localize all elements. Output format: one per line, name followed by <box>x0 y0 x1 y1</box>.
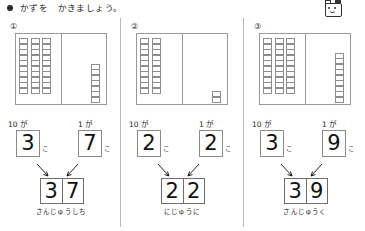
unit-cell <box>152 88 161 94</box>
unit-cell <box>140 88 149 94</box>
problem-panel-3: ③ 10 が 1 が 3 こ 9 こ 3 9 さんじゅうく <box>244 18 365 231</box>
problem-number: ① <box>10 22 17 31</box>
tens-rods-area <box>140 38 183 102</box>
ones-label: 1 が <box>78 118 92 129</box>
place-value-board <box>15 33 107 105</box>
unit-cube <box>212 97 221 103</box>
tens-digit-box[interactable]: 3 <box>260 130 284 157</box>
problem-number: ③ <box>254 22 261 31</box>
place-value-board <box>136 33 228 105</box>
tens-counter-label: こ <box>42 143 49 153</box>
unit-cell <box>275 88 284 94</box>
unit-cell <box>263 88 272 94</box>
worksheet-header: かずを かきましょう。 <box>0 0 365 17</box>
ten-rod <box>152 38 161 102</box>
ten-rod <box>286 38 295 102</box>
unit-cell <box>286 88 295 94</box>
tens-label: 10 が <box>129 118 148 129</box>
equation-area: 10 が 1 が 3 こ 7 こ 3 7 さんじゅうしち <box>0 116 122 231</box>
tens-label: 10 が <box>8 118 27 129</box>
ones-digit-box[interactable]: 7 <box>78 130 102 157</box>
tens-counter-label: こ <box>286 143 293 153</box>
number-reading: にじゅうに <box>121 206 243 216</box>
ten-rod <box>275 38 284 102</box>
mascot-eye-left <box>328 7 330 9</box>
tens-label: 10 が <box>252 118 271 129</box>
tens-digit-box[interactable]: 3 <box>16 130 40 157</box>
result-box[interactable]: 2 2 <box>161 178 205 204</box>
equation-area: 10 が 1 が 3 こ 9 こ 3 9 さんじゅうく <box>244 116 365 231</box>
tens-digit-box[interactable]: 2 <box>137 130 161 157</box>
worksheet-page: かずを かきましょう。 ① 10 が 1 が 3 こ 7 こ <box>0 0 365 231</box>
ones-stack <box>335 53 344 103</box>
ones-cubes-area <box>60 38 100 102</box>
equation-area: 10 が 1 が 2 こ 2 こ 2 2 にじゅうに <box>121 116 243 231</box>
tens-rods-area <box>19 38 62 102</box>
result-box[interactable]: 3 7 <box>40 178 84 204</box>
ones-counter-label: こ <box>104 143 111 153</box>
result-ones-digit: 7 <box>63 179 84 203</box>
ten-rod <box>263 38 272 102</box>
result-ones-digit: 2 <box>184 179 205 203</box>
page-title: かずを かきましょう。 <box>20 1 122 13</box>
number-reading: さんじゅうしち <box>0 206 122 216</box>
ones-cubes-area <box>304 38 344 102</box>
ten-rod <box>19 38 28 102</box>
unit-cube <box>91 97 100 103</box>
ten-rod <box>42 38 51 102</box>
ten-rod <box>31 38 40 102</box>
tens-rods-area <box>263 38 306 102</box>
problem-panel-1: ① 10 が 1 が 3 こ 7 こ 3 7 さんじゅうしち <box>0 18 122 231</box>
place-value-board <box>259 33 351 105</box>
unit-cell <box>19 88 28 94</box>
ones-label: 1 が <box>199 118 213 129</box>
result-ones-digit: 9 <box>307 179 328 203</box>
ones-digit-box[interactable]: 9 <box>322 130 346 157</box>
unit-cell <box>31 88 40 94</box>
ones-cubes-area <box>181 38 221 102</box>
result-box[interactable]: 3 9 <box>284 178 328 204</box>
ones-counter-label: こ <box>225 143 232 153</box>
problem-number: ② <box>131 22 138 31</box>
mascot-eye-right <box>334 7 336 9</box>
filled-circle-icon <box>7 5 13 11</box>
ones-stack <box>91 64 100 103</box>
unit-cube <box>335 97 344 103</box>
mascot-face-icon <box>324 0 341 16</box>
ones-counter-label: こ <box>348 143 355 153</box>
ten-rod <box>140 38 149 102</box>
tens-counter-label: こ <box>163 143 170 153</box>
ones-stack <box>212 91 221 102</box>
result-tens-digit: 2 <box>162 179 184 203</box>
unit-cell <box>42 88 51 94</box>
result-tens-digit: 3 <box>285 179 307 203</box>
number-reading: さんじゅうく <box>244 206 365 216</box>
ones-digit-box[interactable]: 2 <box>199 130 223 157</box>
ones-label: 1 が <box>322 118 336 129</box>
problem-panel-2: ② 10 が 1 が 2 こ 2 こ 2 2 にじゅうに <box>121 18 243 231</box>
result-tens-digit: 3 <box>41 179 63 203</box>
